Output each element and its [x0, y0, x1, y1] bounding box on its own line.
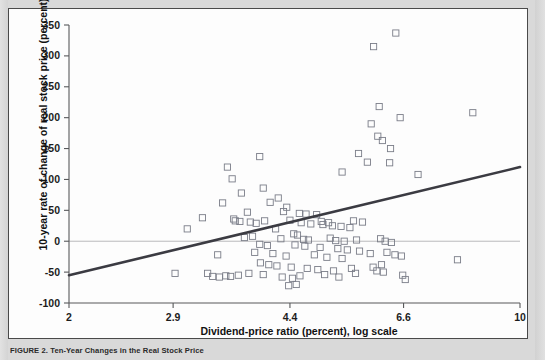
data-point-marker: [260, 185, 266, 191]
y-axis-title: 10-year rate of change of real stock pri…: [38, 0, 49, 263]
data-point-marker: [353, 237, 359, 243]
data-point-marker: [296, 210, 302, 216]
data-point-marker: [224, 164, 230, 170]
data-point-marker: [275, 195, 281, 201]
data-point-marker: [397, 115, 403, 121]
data-point-marker: [199, 215, 205, 221]
data-point-marker: [374, 268, 380, 274]
data-point-marker: [266, 262, 272, 268]
data-point-marker: [322, 271, 328, 277]
data-point-marker: [380, 269, 386, 275]
data-point-marker: [339, 255, 345, 261]
data-point-marker: [368, 121, 374, 127]
data-point-marker: [267, 199, 273, 205]
data-point-marker: [229, 176, 235, 182]
data-point-marker: [384, 249, 390, 255]
data-point-marker: [415, 171, 421, 177]
data-point-marker: [356, 248, 362, 254]
data-point-marker: [238, 190, 244, 196]
page-edge-left: [0, 0, 8, 360]
x-axis-tick-label: 6.6: [396, 311, 411, 323]
data-point-marker: [376, 103, 382, 109]
x-axis-title: Dividend-price ratio (percent), log scal…: [69, 325, 529, 337]
data-point-marker: [379, 137, 385, 143]
scatter-plot: -100-5005010015020025030035022.94.46.610: [9, 9, 529, 340]
data-point-marker: [279, 274, 285, 280]
figure-caption: FIGURE 2. Ten-Year Changes in the Real S…: [10, 346, 530, 360]
data-point-marker: [184, 226, 190, 232]
caption-label: FIGURE 2.: [10, 346, 48, 355]
data-point-marker: [235, 272, 241, 278]
data-point-marker: [288, 264, 294, 270]
data-point-marker: [252, 249, 258, 255]
data-point-marker: [244, 209, 250, 215]
data-point-marker: [172, 270, 178, 276]
data-point-marker: [274, 263, 280, 269]
data-point-marker: [370, 264, 376, 270]
chart-svg: -100-5005010015020025030035022.94.46.610: [9, 9, 529, 340]
data-point-marker: [378, 262, 384, 268]
x-axis-tick-label: 4.4: [283, 311, 298, 323]
data-point-marker: [311, 252, 317, 258]
data-point-marker: [335, 246, 341, 252]
data-point-marker: [241, 234, 247, 240]
data-point-marker: [470, 110, 476, 116]
data-point-marker: [367, 250, 373, 256]
data-point-marker: [308, 221, 314, 227]
data-point-marker: [286, 283, 292, 289]
data-point-marker: [270, 250, 276, 256]
data-point-marker: [264, 242, 270, 248]
data-point-marker: [370, 44, 376, 50]
data-point-marker: [336, 274, 342, 280]
data-point-marker: [247, 219, 253, 225]
data-point-marker: [297, 273, 303, 279]
figure-panel: -100-5005010015020025030035022.94.46.610…: [8, 8, 528, 339]
page-background: -100-5005010015020025030035022.94.46.610…: [0, 0, 545, 360]
data-point-marker: [257, 260, 263, 266]
data-point-marker: [388, 239, 394, 245]
data-point-marker: [257, 153, 263, 159]
data-point-marker: [359, 219, 365, 225]
data-point-marker: [347, 225, 353, 231]
data-point-marker: [400, 272, 406, 278]
data-point-marker: [339, 169, 345, 175]
data-point-marker: [387, 160, 393, 166]
y-axis-tick-label: -50: [45, 266, 60, 278]
x-axis-tick-label: 10: [514, 311, 526, 323]
data-point-marker: [283, 253, 289, 259]
x-axis-tick-label: 2: [66, 311, 72, 323]
data-point-marker: [302, 243, 308, 249]
caption-body: Ten-Year Changes in the Real Stock Price: [50, 346, 204, 355]
data-point-marker: [393, 30, 399, 36]
data-point-marker: [392, 252, 398, 258]
y-axis-tick-label: 50: [48, 204, 60, 216]
trendline: [69, 167, 520, 275]
data-point-marker: [387, 145, 393, 151]
x-axis-tick-label: 2.9: [166, 311, 181, 323]
data-point-marker: [344, 247, 350, 253]
data-point-marker: [303, 211, 309, 217]
data-point-marker: [246, 270, 252, 276]
data-point-marker: [220, 200, 226, 206]
y-axis-tick-label: -100: [39, 297, 60, 309]
data-point-marker: [215, 252, 221, 258]
data-point-marker: [315, 267, 321, 273]
data-point-marker: [355, 150, 361, 156]
y-axis-tick-label: 0: [54, 235, 60, 247]
data-point-marker: [304, 265, 310, 271]
data-point-marker: [454, 257, 460, 263]
data-point-marker: [324, 254, 330, 260]
data-point-marker: [402, 276, 408, 282]
data-point-marker: [375, 133, 381, 139]
data-point-marker: [293, 281, 299, 287]
data-point-marker: [289, 275, 295, 281]
data-point-marker: [364, 159, 370, 165]
data-point-marker: [330, 268, 336, 274]
data-point-marker: [292, 242, 298, 248]
data-point-marker: [398, 253, 404, 259]
data-point-marker: [253, 220, 259, 226]
page-edge-right: [535, 0, 545, 360]
data-point-marker: [231, 216, 237, 222]
data-point-marker: [260, 271, 266, 277]
data-point-marker: [338, 223, 344, 229]
